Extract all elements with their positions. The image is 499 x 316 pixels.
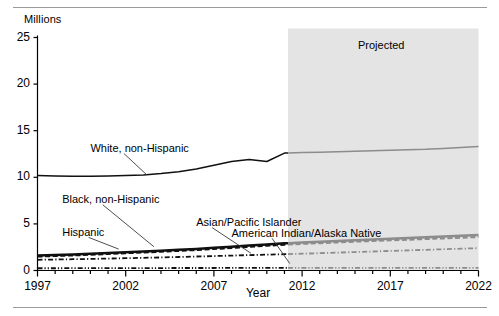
label-leader-line <box>103 205 154 247</box>
x-axis-tick-label: 2022 <box>456 279 499 293</box>
x-axis-tick-label: 2007 <box>191 279 237 293</box>
series-line-historical <box>38 153 288 176</box>
y-axis-tick-label: 20 <box>8 76 30 90</box>
chart-figure: Millions Year Projected 0510152025199720… <box>0 0 499 316</box>
series-label: Hispanic <box>62 226 104 238</box>
x-axis-tick-label: 2017 <box>367 279 413 293</box>
x-axis-tick-label: 1997 <box>15 279 61 293</box>
y-axis-tick-label: 5 <box>8 216 30 230</box>
series-line-historical <box>38 243 288 255</box>
series-label: Asian/Pacific Islander <box>196 216 301 228</box>
y-axis-tick-label: 0 <box>8 263 30 277</box>
series-label: American Indian/Alaska Native <box>232 227 382 239</box>
series-label: White, non-Hispanic <box>90 142 188 154</box>
projection-label: Projected <box>358 39 404 51</box>
label-leader-line <box>89 237 119 249</box>
x-axis-tick-label: 2002 <box>103 279 149 293</box>
series-label: Black, non-Hispanic <box>62 193 159 205</box>
y-axis-tick-label: 25 <box>8 30 30 44</box>
y-axis-tick-label: 15 <box>8 123 30 137</box>
y-axis-tick-label: 10 <box>8 169 30 183</box>
label-leader-line <box>124 154 147 175</box>
x-axis-tick-label: 2012 <box>279 279 325 293</box>
chart-canvas <box>0 0 499 316</box>
